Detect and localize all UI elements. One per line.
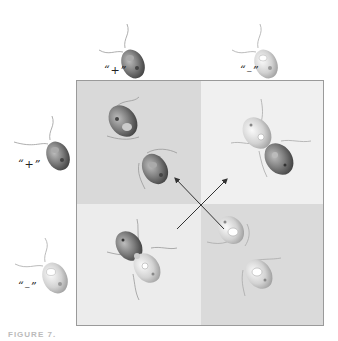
column-label-plus: “+” xyxy=(104,64,127,77)
arrow-to-top-left xyxy=(175,178,224,229)
figure-caption: FIGURE 7. xyxy=(8,330,56,339)
mating-grid xyxy=(76,80,324,326)
column-label-minus: “–” xyxy=(240,64,260,77)
row-label-minus: “–” xyxy=(18,280,38,293)
crossing-arrows xyxy=(77,81,324,326)
light-cell-icon xyxy=(5,232,75,302)
arrow-to-top-right xyxy=(177,179,227,229)
row-label-plus: “+” xyxy=(18,158,41,171)
